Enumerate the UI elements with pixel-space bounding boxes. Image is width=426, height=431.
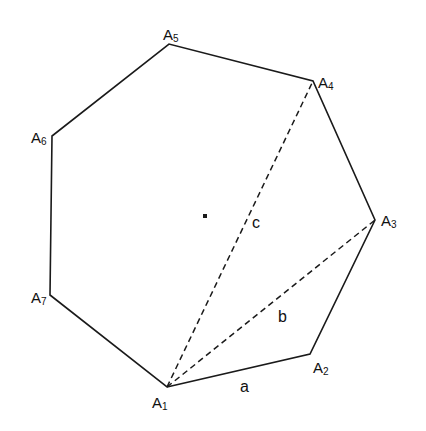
diagonal-label-c: c [252, 214, 260, 231]
vertex-label-a3: A3 [381, 212, 397, 230]
diagonal-label-b: b [278, 308, 287, 325]
side-label-a: a [240, 378, 249, 395]
diagonal-c-a1-a4 [167, 81, 313, 387]
vertex-label-a2: A2 [313, 359, 329, 377]
diagonal-b-a1-a3 [167, 220, 375, 387]
center-point [203, 214, 207, 218]
heptagon-outline [50, 44, 375, 387]
vertex-label-a1: A1 [152, 394, 168, 412]
heptagon-diagram: A1A2A3A4A5A6A7 a b c [0, 0, 426, 431]
vertex-label-a6: A6 [31, 129, 47, 147]
vertex-label-a4: A4 [318, 74, 334, 92]
vertex-labels: A1A2A3A4A5A6A7 [31, 26, 397, 412]
vertex-label-a7: A7 [31, 289, 47, 307]
vertex-label-a5: A5 [163, 26, 179, 44]
